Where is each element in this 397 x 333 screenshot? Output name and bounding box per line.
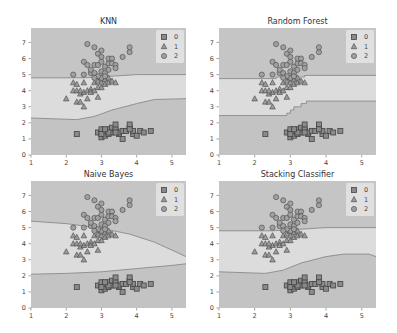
point-class-0 (302, 275, 307, 280)
legend-square-icon (352, 188, 357, 193)
point-class-2 (81, 225, 86, 230)
x-tick-label: 1 (217, 159, 221, 167)
legend-label: 1 (364, 43, 368, 51)
point-class-0 (324, 286, 329, 291)
point-class-2 (102, 227, 107, 232)
point-class-0 (331, 283, 336, 288)
point-class-2 (309, 207, 314, 212)
y-tick-label: 3 (22, 103, 26, 111)
legend-label: 0 (174, 186, 178, 194)
y-tick-label: 5 (210, 71, 214, 79)
point-class-2 (302, 66, 307, 71)
x-tick-label: 3 (99, 312, 103, 320)
legend-label: 1 (174, 196, 178, 204)
point-class-2 (85, 194, 90, 199)
point-class-2 (127, 45, 132, 50)
y-tick-label: 3 (22, 256, 26, 264)
point-class-2 (259, 225, 264, 230)
point-class-2 (99, 54, 104, 59)
point-class-0 (127, 280, 132, 285)
point-class-0 (113, 122, 118, 127)
point-class-0 (148, 281, 153, 286)
point-class-2 (85, 41, 90, 46)
point-class-2 (316, 198, 321, 203)
point-class-2 (298, 56, 303, 61)
point-class-2 (127, 198, 132, 203)
legend-label: 0 (364, 186, 368, 194)
y-tick-label: 2 (210, 272, 214, 280)
legend-box (156, 30, 184, 63)
point-class-2 (99, 207, 104, 212)
point-class-0 (113, 275, 118, 280)
plot-title: Random Forest (267, 17, 327, 26)
point-class-2 (295, 220, 300, 225)
y-tick-label: 6 (22, 55, 26, 63)
stacking-classifier-plot: Stacking Classifier1234501234567012 (210, 170, 376, 320)
point-class-0 (127, 127, 132, 132)
legend-square-icon (162, 35, 167, 40)
point-class-0 (99, 132, 104, 137)
x-tick-label: 4 (324, 312, 328, 320)
point-class-2 (270, 72, 275, 77)
plot-title: KNN (100, 17, 117, 26)
point-class-2 (281, 75, 286, 80)
point-class-2 (102, 74, 107, 79)
legend: 012 (156, 183, 184, 216)
point-class-0 (302, 122, 307, 127)
legend-box (346, 183, 374, 216)
legend-square-icon (352, 35, 357, 40)
point-class-2 (309, 54, 314, 59)
legend-square-icon (162, 188, 167, 193)
point-class-0 (288, 285, 293, 290)
point-class-2 (99, 59, 104, 64)
y-tick-label: 1 (210, 288, 214, 296)
legend-label: 2 (364, 205, 368, 213)
x-tick-label: 5 (360, 312, 364, 320)
x-tick-label: 5 (170, 312, 174, 320)
legend-circle-icon (161, 53, 166, 58)
point-class-2 (288, 59, 293, 64)
legend-box (156, 183, 184, 216)
legend-label: 2 (364, 52, 368, 60)
y-tick-label: 1 (22, 135, 26, 143)
figure: KNN1234501234567012 Random Forest1234501… (0, 0, 397, 333)
point-class-0 (113, 283, 118, 288)
point-class-2 (281, 45, 286, 50)
point-class-0 (338, 281, 343, 286)
y-tick-label: 2 (210, 119, 214, 127)
point-class-2 (316, 45, 321, 50)
point-class-0 (291, 280, 296, 285)
point-class-2 (71, 72, 76, 77)
point-class-0 (338, 128, 343, 133)
x-tick-label: 2 (253, 312, 257, 320)
point-class-0 (302, 130, 307, 135)
point-class-2 (298, 209, 303, 214)
x-tick-label: 5 (360, 159, 364, 167)
y-tick-label: 3 (210, 256, 214, 264)
point-class-2 (81, 72, 86, 77)
legend-circle-icon (161, 206, 166, 211)
point-class-2 (109, 56, 114, 61)
point-class-2 (316, 50, 321, 55)
point-class-2 (316, 203, 321, 208)
point-class-0 (316, 275, 321, 280)
point-class-2 (281, 228, 286, 233)
point-class-0 (263, 132, 268, 137)
point-class-2 (291, 74, 296, 79)
naive-bayes-plot: Naive Bayes1234501234567012 (22, 170, 186, 320)
point-class-2 (92, 75, 97, 80)
point-class-0 (134, 286, 139, 291)
point-class-0 (148, 128, 153, 133)
x-tick-label: 4 (135, 312, 139, 320)
y-tick-label: 0 (210, 151, 214, 159)
x-tick-label: 5 (170, 159, 174, 167)
point-class-2 (92, 198, 97, 203)
y-tick-label: 5 (22, 71, 26, 79)
point-class-2 (273, 62, 278, 67)
point-class-0 (309, 289, 314, 294)
legend: 012 (156, 30, 184, 63)
point-class-0 (309, 136, 314, 141)
point-class-2 (273, 194, 278, 199)
point-class-0 (141, 283, 146, 288)
legend-label: 1 (364, 196, 368, 204)
